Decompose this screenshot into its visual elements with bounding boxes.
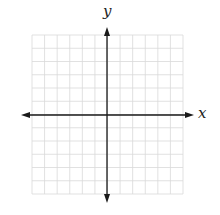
x-axis-right-arrow-icon (185, 112, 194, 118)
x-axis-label: x (198, 106, 206, 121)
x-axis-left-arrow-icon (21, 112, 30, 118)
coordinate-plane (0, 0, 220, 215)
axes (21, 27, 194, 203)
y-axis-label: y (103, 4, 111, 19)
y-axis-up-arrow-icon (104, 27, 110, 36)
y-axis-down-arrow-icon (104, 194, 110, 203)
